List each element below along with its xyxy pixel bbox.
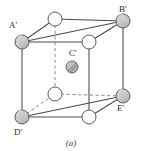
corner-atom-d-prime bbox=[15, 110, 29, 124]
vertex-label-c-prime: C' bbox=[69, 49, 77, 58]
corner-atom-a-prime bbox=[15, 35, 29, 49]
face-atom-bottom-back bbox=[48, 87, 62, 101]
corner-atom-b-prime bbox=[116, 14, 130, 28]
unit-cell-figure: A' B' C' D' E' (a) bbox=[0, 0, 142, 151]
edge-top-back-to-b bbox=[55, 19, 123, 21]
corner-atom-e-prime bbox=[116, 89, 130, 103]
vertex-label-b-prime: B' bbox=[119, 5, 127, 14]
vertex-label-d-prime: D' bbox=[14, 128, 22, 137]
figure-caption: (a) bbox=[0, 138, 142, 148]
face-atom-bottom-front bbox=[82, 110, 96, 124]
vertex-label-e-prime: E' bbox=[117, 104, 124, 113]
face-atom-top-front bbox=[82, 35, 96, 49]
vertex-label-a-prime: A' bbox=[9, 21, 17, 30]
face-atom-top-back bbox=[48, 12, 62, 26]
body-center-atom-c-prime bbox=[66, 61, 79, 74]
